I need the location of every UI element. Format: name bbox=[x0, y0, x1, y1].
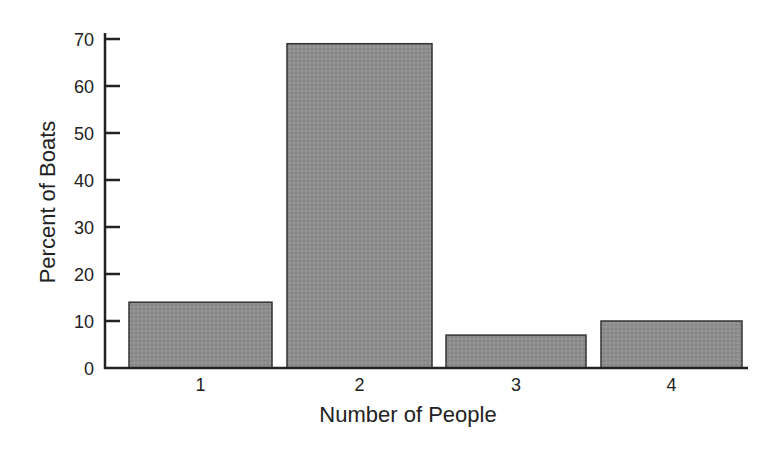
x-tick-label: 2 bbox=[354, 375, 364, 395]
bar-4 bbox=[601, 321, 742, 368]
y-tick-label: 40 bbox=[74, 171, 94, 191]
bar-3 bbox=[446, 335, 586, 368]
y-tick-label: 10 bbox=[74, 312, 94, 332]
y-axis: 010203040506070 bbox=[74, 30, 120, 379]
x-tick-label: 4 bbox=[666, 375, 676, 395]
x-tick-label: 1 bbox=[195, 375, 205, 395]
y-axis-title: Percent of Boats bbox=[35, 121, 60, 284]
y-tick-label: 20 bbox=[74, 265, 94, 285]
x-tick-label: 3 bbox=[511, 375, 521, 395]
bar-2 bbox=[287, 44, 432, 368]
x-axis: 1234 bbox=[104, 368, 748, 395]
bar-chart: 010203040506070 1234 Percent of Boats Nu… bbox=[0, 0, 776, 450]
y-tick-label: 60 bbox=[74, 77, 94, 97]
y-tick-label: 50 bbox=[74, 124, 94, 144]
x-axis-title: Number of People bbox=[319, 402, 496, 427]
y-tick-label: 30 bbox=[74, 218, 94, 238]
bar-1 bbox=[129, 302, 272, 368]
y-tick-label: 0 bbox=[84, 359, 94, 379]
y-tick-label: 70 bbox=[74, 30, 94, 50]
bars-group bbox=[129, 44, 742, 368]
